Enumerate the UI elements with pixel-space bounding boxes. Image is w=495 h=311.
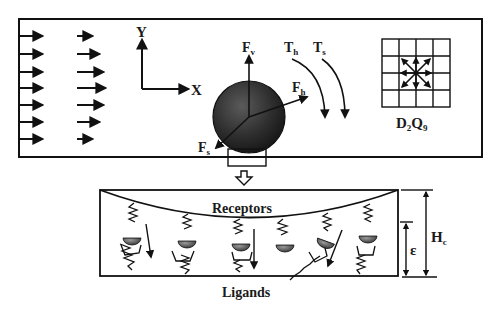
velocity-profile-arrows	[77, 36, 105, 139]
diagram-canvas: Y X Fv Fh Fs Th Ts D2Q9	[0, 0, 495, 311]
torque-h-label: Th	[284, 40, 298, 57]
force-horizontal-label: Fh	[292, 80, 306, 97]
d2q9-velocity-arrows	[401, 58, 431, 88]
force-vertical-label: Fv	[242, 40, 256, 57]
inflow-arrows	[20, 36, 42, 139]
gap-epsilon-label: ε	[410, 242, 417, 258]
channel-height-label: Hc	[431, 229, 447, 247]
receptors-label: Receptors	[212, 201, 272, 216]
coordinate-axes	[142, 40, 188, 89]
x-axis-label: X	[191, 82, 202, 98]
ligands-label: Ligands	[222, 285, 271, 300]
torque-s-label: Ts	[313, 40, 326, 57]
y-axis-label: Y	[136, 24, 147, 40]
zoom-arrow-icon	[236, 171, 252, 185]
d2q9-label: D2Q9	[396, 115, 428, 133]
force-shear-label: Fs	[198, 140, 211, 157]
